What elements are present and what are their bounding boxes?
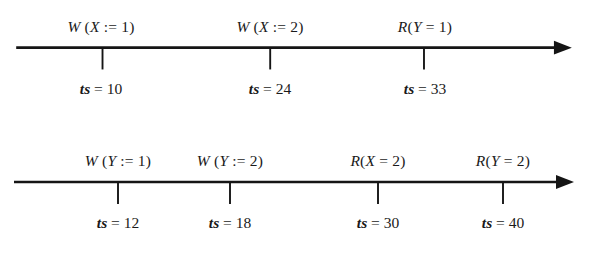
timeline-diagram: W (X := 1) W (X := 2) R(Y = 1) ts = 10 t… — [0, 0, 590, 255]
operation-label: W (Y := 1) — [85, 152, 151, 170]
operation-label: R(Y = 2) — [476, 152, 530, 170]
timestamp-label: ts = 18 — [209, 214, 251, 232]
transaction-timeline-2: W (Y := 1) W (Y := 2) R(X = 2) R(Y = 2) … — [0, 128, 590, 255]
timestamp-label: ts = 12 — [97, 214, 139, 232]
timestamp-label: ts = 24 — [249, 80, 291, 98]
operation-label: W (X := 1) — [67, 18, 134, 36]
timeline-1-arrow-icon — [554, 41, 572, 55]
operation-label: R(Y = 1) — [398, 18, 452, 36]
operation-label: W (X := 2) — [236, 18, 303, 36]
timestamp-label: ts = 30 — [357, 214, 399, 232]
operation-label: W (Y := 2) — [197, 152, 263, 170]
timestamp-label: ts = 33 — [404, 80, 446, 98]
operation-label: R(X = 2) — [350, 152, 405, 170]
timestamp-label: ts = 40 — [482, 214, 524, 232]
timeline-2-arrow-icon — [556, 175, 574, 189]
timeline-2-axis — [0, 128, 590, 255]
transaction-timeline-1: W (X := 1) W (X := 2) R(Y = 1) ts = 10 t… — [0, 0, 590, 128]
timestamp-label: ts = 10 — [80, 80, 122, 98]
